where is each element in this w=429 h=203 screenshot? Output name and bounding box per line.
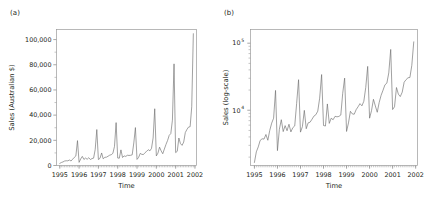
figure-panels: (a) 020,00040,00060,00080,000100,000 199… [0,0,429,203]
panel-b-x-tick-label: 1995 [246,171,262,179]
panel-b-y-axis: 104105 [232,38,250,157]
panel-b-x-axis-title: Time [325,182,343,190]
panel-a-x-tick-label: 2002 [187,171,203,179]
panel-b-plot: 104105 19951996199719981999200020012002 … [214,0,429,203]
panel-b-series-line [254,42,413,163]
panel-a-y-tick-label: 100,000 [25,36,51,44]
panel-b-x-axis: 19951996199719981999200020012002 [246,166,424,179]
panel-a-x-axis-title: Time [117,182,135,190]
panel-b-x-tick-label: 1996 [269,171,285,179]
panel-a-y-tick-label: 80,000 [29,61,51,69]
panel-a-x-tick-label: 1999 [129,171,145,179]
panel-b-x-tick-label: 2001 [384,171,400,179]
panel-b-y-tick-label: 10 [232,39,240,47]
panel-a-x-tick-label: 1995 [52,171,68,179]
panel-a-y-tick-label: 0 [47,162,51,170]
panel-a-plot: 020,00040,00060,00080,000100,000 1995199… [0,0,215,203]
panel-a-y-tick-label: 60,000 [29,86,51,94]
panel-b-y-tick-label: 10 [232,107,240,115]
panel-b-y-tick-exponent: 5 [241,38,244,43]
panel-b-x-tick-label: 2000 [361,171,377,179]
panel-b: (b) 104105 19951996199719981999200020012… [214,0,429,203]
panel-b-x-tick-label: 1998 [315,171,331,179]
panel-a-y-tick-label: 40,000 [29,111,51,119]
panel-a-y-tick-label: 20,000 [29,137,51,145]
panel-b-x-tick-label: 1997 [292,171,308,179]
panel-a-x-tick-label: 1998 [110,171,126,179]
panel-b-x-tick-label: 1999 [338,171,354,179]
panel-a-series-line [60,34,194,164]
panel-a-x-tick-label: 2001 [168,171,184,179]
panel-a-x-axis: 19951996199719981999200020012002 [52,166,203,179]
panel-b-x-tick-label: 2002 [408,171,424,179]
panel-a-x-tick-label: 1997 [90,171,106,179]
panel-a-x-tick-label: 2000 [148,171,164,179]
panel-a-x-tick-label: 1996 [71,171,87,179]
panel-b-y-axis-title: Sales (log-scale) [222,69,230,125]
panel-a: (a) 020,00040,00060,00080,000100,000 199… [0,0,215,203]
panel-b-y-tick-exponent: 4 [241,105,244,110]
panel-a-y-axis-title: Sales (Australian $) [8,64,16,131]
panel-a-y-axis: 020,00040,00060,00080,000100,000 [25,36,56,170]
